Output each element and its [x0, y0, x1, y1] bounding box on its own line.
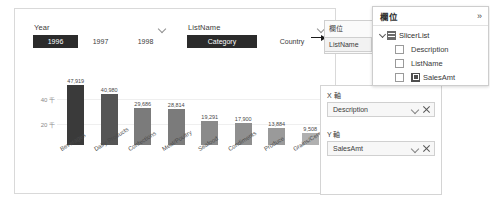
- field-label: ListName: [411, 59, 443, 68]
- slicer-year-item-1997[interactable]: 1997: [78, 35, 123, 48]
- field-wells-panel: X 軸 Description Y 軸 SalesAmt: [320, 85, 442, 195]
- field-label: Description: [411, 45, 449, 54]
- chevron-double-right-icon[interactable]: »: [477, 12, 482, 21]
- y-tick-40k: 40 千: [41, 95, 55, 104]
- chevron-down-icon[interactable]: [411, 144, 420, 153]
- field-item-listname[interactable]: ListName: [373, 56, 488, 70]
- chart-bars: 47,919 40,980 29,686 28,814: [59, 65, 327, 145]
- y-axis-well-label: Y 軸: [321, 117, 441, 141]
- x-axis-well-field[interactable]: Description: [327, 102, 435, 117]
- slicer-listname[interactable]: ListName Category Country: [187, 23, 327, 48]
- y-tick-20k: 20 千: [41, 120, 55, 129]
- close-icon[interactable]: [422, 105, 431, 114]
- table-icon: [387, 31, 396, 40]
- x-axis-well-label: X 軸: [321, 86, 441, 102]
- bar-value-label: 9,508: [303, 126, 317, 132]
- slicer-year[interactable]: Year 1996 1997 1998: [33, 23, 168, 48]
- slicer-listname-title: ListName: [188, 23, 220, 32]
- report-canvas: Year 1996 1997 1998 ListName Category Co…: [14, 8, 336, 194]
- y-axis-well-field[interactable]: SalesAmt: [327, 141, 435, 156]
- bar-value-label: 40,980: [101, 87, 118, 93]
- slicer-listname-item-category[interactable]: Category: [187, 35, 257, 48]
- fields-table-name: SlicerList: [399, 31, 429, 40]
- fields-pane-header: 欄位 »: [373, 7, 488, 24]
- chevron-down-icon[interactable]: [379, 32, 386, 39]
- callout-fields-box: 欄位 ListName: [324, 20, 374, 54]
- chart-y-axis: 40 千 20 千: [33, 65, 57, 143]
- slicer-year-title: Year: [34, 23, 50, 32]
- slicer-listname-header: ListName: [187, 23, 327, 32]
- slicer-year-items: 1996 1997 1998: [33, 35, 168, 48]
- chevron-down-icon[interactable]: [158, 24, 166, 32]
- chevron-down-icon[interactable]: [411, 105, 420, 114]
- y-axis-field-name: SalesAmt: [333, 145, 411, 152]
- bar-chart[interactable]: 40 千 20 千 47,919 40,980 29,686: [33, 65, 329, 193]
- screenshot-canvas: Year 1996 1997 1998 ListName Category Co…: [0, 0, 490, 201]
- fields-pane-title: 欄位: [380, 10, 398, 22]
- bar-group[interactable]: 47,919: [59, 65, 93, 145]
- x-axis-field-name: Description: [333, 106, 411, 113]
- field-label: SalesAmt: [423, 73, 455, 82]
- fields-pane: 欄位 » SlicerList Description ListName Sal…: [372, 6, 489, 86]
- bar-value-label: 17,900: [235, 116, 252, 122]
- slicer-year-item-1996[interactable]: 1996: [33, 35, 78, 48]
- bar-group[interactable]: 19,291: [193, 65, 227, 145]
- bar-value-label: 19,291: [201, 114, 218, 120]
- divider: [373, 25, 488, 26]
- close-icon[interactable]: [422, 144, 431, 153]
- checkbox-icon[interactable]: [395, 45, 404, 54]
- bar-value-label: 29,686: [134, 101, 151, 107]
- sum-icon: [411, 73, 420, 82]
- chart-x-axis: Beverages Dairy Products Confections Mea…: [59, 147, 327, 191]
- slicer-year-item-1998[interactable]: 1998: [123, 35, 168, 48]
- field-item-description[interactable]: Description: [373, 42, 488, 56]
- bar-value-label: 47,919: [67, 78, 84, 84]
- bar-group[interactable]: 13,884: [260, 65, 294, 145]
- slicer-listname-items: Category Country: [187, 35, 327, 48]
- field-item-salesamt[interactable]: SalesAmt: [373, 70, 488, 84]
- bar-value-label: 13,884: [268, 121, 285, 127]
- chart-plot-area: 47,919 40,980 29,686 28,814: [59, 65, 327, 145]
- checkbox-icon[interactable]: [395, 73, 404, 82]
- slicer-year-header: Year: [33, 23, 168, 32]
- bar-value-label: 28,814: [168, 102, 185, 108]
- callout-field-value[interactable]: ListName: [324, 37, 372, 52]
- callout-title: 欄位: [325, 21, 373, 33]
- fields-table-slicerlist[interactable]: SlicerList: [373, 28, 488, 42]
- checkbox-icon[interactable]: [395, 59, 404, 68]
